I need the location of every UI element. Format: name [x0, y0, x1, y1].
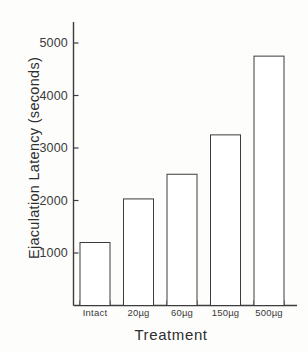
x-axis-tick-labels: Intact20µg60µg150µg500µg	[0, 0, 308, 353]
x-axis-title: Treatment	[0, 326, 308, 343]
bar-chart-figure: Ejaculation Latency (seconds) 1000200030…	[0, 0, 308, 353]
x-axis-tick-label-4: 500µg	[239, 307, 299, 318]
